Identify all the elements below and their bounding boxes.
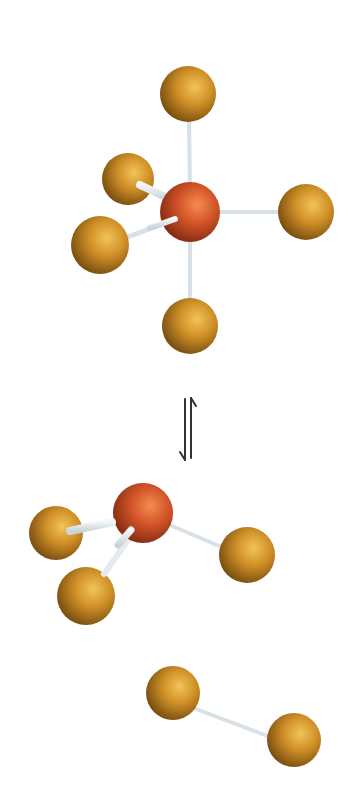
ligand-atom-equatorial-right <box>278 184 334 240</box>
molecule-ax5 <box>71 66 334 354</box>
central-atom-ax3 <box>113 483 173 543</box>
molecule-x2 <box>146 666 321 767</box>
ligand-atom-equatorial-back-left <box>102 153 154 205</box>
bond-axial-top <box>189 118 190 190</box>
bond-x2 <box>196 709 270 737</box>
x2-atom-2 <box>267 713 321 767</box>
equilibrium-arrow-icon <box>180 398 196 460</box>
ligand-atom-axial-top <box>160 66 216 122</box>
central-atom-ax5 <box>160 182 220 242</box>
ligand-atom-axial-bottom <box>162 298 218 354</box>
x2-atom-1 <box>146 666 200 720</box>
ligand-atom-equatorial-front-left <box>71 216 129 274</box>
molecule-ax3 <box>29 483 275 625</box>
reaction-diagram <box>0 0 362 808</box>
ligand-atom-right <box>219 527 275 583</box>
bond-right <box>165 523 224 548</box>
